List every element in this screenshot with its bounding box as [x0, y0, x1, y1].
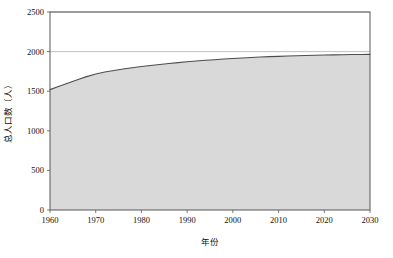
x-axis-tick-label: 2020 — [316, 215, 333, 225]
x-axis-tick-label: 1970 — [87, 215, 104, 225]
y-axis-title: 总人口数（人） — [3, 80, 13, 143]
y-axis-tick-label: 1500 — [27, 86, 44, 96]
x-axis-tick-label: 1960 — [42, 215, 59, 225]
y-axis-tick-label: 0 — [40, 205, 44, 215]
x-axis-tick-label: 2000 — [224, 215, 241, 225]
series-area-fill — [50, 54, 370, 210]
x-axis-title: 年份 — [201, 237, 219, 247]
y-axis: 05001000150020002500 — [27, 7, 50, 215]
y-axis-tick-label: 2500 — [27, 7, 44, 17]
y-axis-tick-label: 2000 — [27, 47, 44, 57]
x-axis: 19601970198019902000201020202030 — [42, 210, 379, 225]
y-axis-tick-label: 1000 — [27, 126, 44, 136]
x-axis-tick-label: 2030 — [362, 215, 379, 225]
population-line-chart: 05001000150020002500 1960197019801990200… — [0, 0, 393, 258]
x-axis-tick-label: 1990 — [179, 215, 196, 225]
x-axis-tick-label: 1980 — [133, 215, 150, 225]
chart-container: 05001000150020002500 1960197019801990200… — [0, 0, 393, 258]
y-axis-tick-label: 500 — [31, 165, 44, 175]
x-axis-tick-label: 2010 — [270, 215, 287, 225]
